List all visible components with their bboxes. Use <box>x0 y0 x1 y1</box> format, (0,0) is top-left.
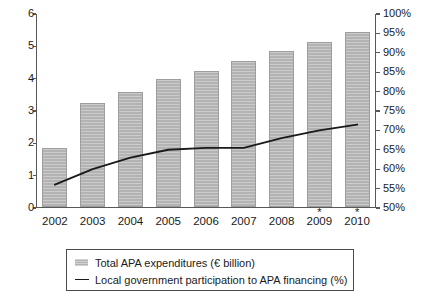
bar <box>231 61 256 207</box>
right-tick-label: 95% <box>383 27 405 38</box>
right-tick-label: 55% <box>383 183 405 194</box>
right-tick-mark <box>376 52 380 53</box>
bar <box>194 71 219 207</box>
x-tick-year: 2010 <box>334 215 380 228</box>
right-tick-mark <box>376 33 380 34</box>
legend-label-line: Local government participation to APA fi… <box>95 274 347 286</box>
right-tick-mark <box>376 130 380 131</box>
right-tick-mark <box>376 13 380 14</box>
left-tick-label: 4 <box>28 73 34 84</box>
right-tick-mark <box>376 169 380 170</box>
bar <box>42 148 67 206</box>
left-tick-label: 2 <box>28 137 34 148</box>
right-tick-label: 60% <box>383 163 405 174</box>
bar <box>307 42 332 207</box>
right-tick-mark <box>376 207 380 208</box>
right-tick-label: 90% <box>383 47 405 58</box>
right-tick-mark <box>376 188 380 189</box>
right-tick-mark <box>376 110 380 111</box>
right-tick-label: 80% <box>383 86 405 97</box>
right-tick-label: 85% <box>383 66 405 77</box>
right-tick-mark <box>376 149 380 150</box>
bar <box>156 79 181 207</box>
chart-figure: 0123456 50%55%60%65%70%75%80%85%90%95%10… <box>0 0 421 307</box>
bar <box>345 32 370 207</box>
bar <box>80 103 105 206</box>
legend-entry-line: Local government participation to APA fi… <box>75 271 347 288</box>
left-tick-label: 5 <box>28 40 34 51</box>
right-tick-label: 100% <box>383 8 411 19</box>
x-axis-line <box>36 207 376 208</box>
legend-entry-bars: Total APA expenditures (€ billion) <box>75 254 255 271</box>
left-axis-line <box>36 14 37 208</box>
right-tick-label: 70% <box>383 124 405 135</box>
plot-area: 0123456 50%55%60%65%70%75%80%85%90%95%10… <box>36 14 376 208</box>
x-axis-tick-labels: *2002*2003*2004*2005*2006*2007*2008*2009… <box>36 210 376 232</box>
right-tick-label: 65% <box>383 144 405 155</box>
right-tick-label: 50% <box>383 202 405 213</box>
left-tick-label: 1 <box>28 170 34 181</box>
chart-legend: Total APA expenditures (€ billion) Local… <box>66 249 354 291</box>
left-tick-label: 3 <box>28 105 34 116</box>
legend-label-bars: Total APA expenditures (€ billion) <box>95 257 255 269</box>
bar <box>269 51 294 206</box>
line-swatch-icon <box>75 279 89 280</box>
bar <box>118 92 143 207</box>
bar-swatch-icon <box>75 259 88 266</box>
left-tick-label: 6 <box>28 8 34 19</box>
x-tick-label: *2010 <box>334 210 380 228</box>
right-tick-mark <box>376 91 380 92</box>
right-tick-label: 75% <box>383 105 405 116</box>
right-tick-mark <box>376 72 380 73</box>
